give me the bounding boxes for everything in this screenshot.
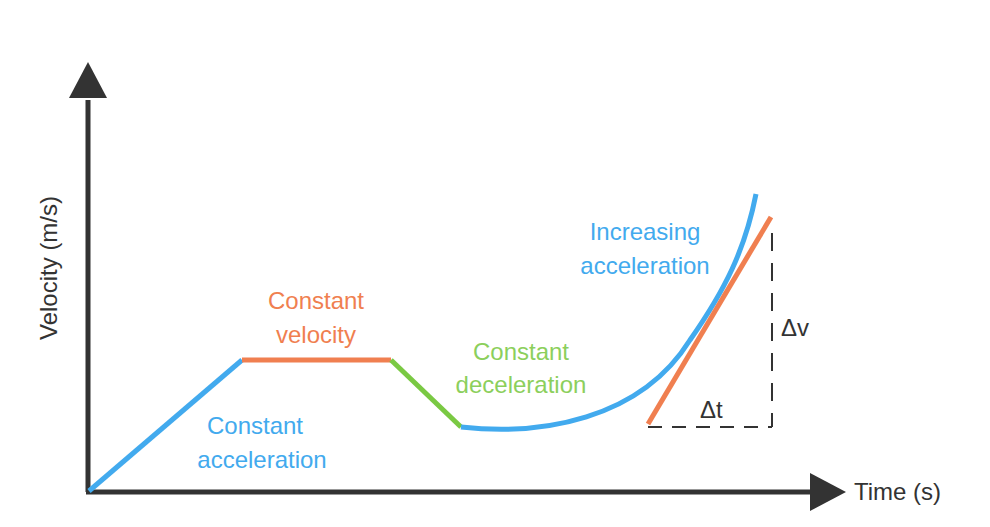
label-constant-velocity-line2: velocity: [276, 321, 356, 348]
x-axis-label: Time (s): [854, 478, 941, 505]
label-increasing-acceleration-line1: Increasing: [590, 218, 701, 245]
label-delta-v: Δv: [781, 314, 809, 341]
segment-constant-deceleration: [391, 360, 461, 427]
y-axis-arrow-icon: [69, 62, 107, 98]
label-constant-acceleration-line2: acceleration: [197, 446, 326, 473]
label-constant-acceleration-line1: Constant: [207, 412, 303, 439]
x-axis-arrow-icon: [810, 473, 846, 511]
label-constant-deceleration-line2: deceleration: [456, 371, 587, 398]
label-constant-deceleration-line1: Constant: [473, 338, 569, 365]
y-axis-label: Velocity (m/s): [35, 196, 62, 340]
velocity-time-diagram: Time (s) Velocity (m/s) Constant acceler…: [0, 0, 990, 527]
tangent-line: [648, 217, 771, 424]
label-increasing-acceleration-line2: acceleration: [580, 252, 709, 279]
label-constant-velocity-line1: Constant: [268, 287, 364, 314]
label-delta-t: Δt: [700, 396, 723, 423]
